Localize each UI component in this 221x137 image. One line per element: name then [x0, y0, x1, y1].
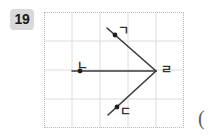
problem-number-badge: 19 [10, 9, 34, 30]
trailing-parenthesis: ( [198, 108, 205, 128]
point-label-lower: ㄷ [120, 106, 131, 118]
worksheet-problem-panel: 19 ㄱ [0, 0, 221, 137]
lower-ray-point [115, 105, 120, 110]
point-label-upper: ㄱ [118, 25, 129, 37]
point-label-left: ㄴ [77, 60, 88, 72]
point-label-vertex: ㄹ [161, 64, 172, 76]
grid-figure-panel: ㄱ ㄴ ㄷ ㄹ [44, 12, 184, 128]
upper-ray-point [113, 33, 118, 38]
